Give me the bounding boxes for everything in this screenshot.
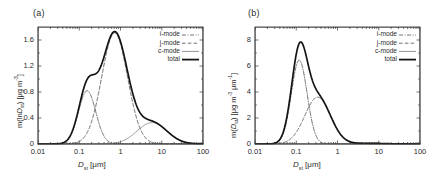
panel-a-y-tick-label: 0.4 [4, 113, 34, 122]
panel-a-legend-label-j-mode: j-mode [130, 39, 180, 46]
panel-a-legend-label-i-mode: i-mode [130, 30, 180, 37]
panel-b-x-axis-title: Dst [μm] [293, 160, 321, 171]
panel-a-x-axis-title: Dst [μm] [78, 160, 106, 171]
panel-a-x-tick-label: 0.1 [59, 147, 99, 156]
panel-b-legend-label-total: total [347, 55, 397, 62]
figure-container: (a) m(lnDst) [μg m-3] Dst [μm] 0.010.111… [0, 0, 433, 182]
panel-b-y-axis-title: m(Dst) [μg m-3 μm-1] [228, 73, 239, 138]
panel-b-y-tick-label: 2 [221, 113, 251, 122]
panel-b-series-j-mode [255, 97, 420, 144]
panel-b-y-tick-label: 4 [221, 87, 251, 96]
panel-b-y-tick-label: 8 [221, 35, 251, 44]
panel-b-legend-label-i-mode: i-mode [347, 30, 397, 37]
panel-b-x-tick-label: 100 [400, 147, 433, 156]
panel-b-y-tick-label: 6 [221, 61, 251, 70]
panel-a-tag: (a) [33, 8, 45, 18]
panel-a-x-tick-label: 10 [142, 147, 182, 156]
panel-b-x-tick-label: 0.01 [235, 147, 275, 156]
panel-a-y-tick-label: 0.8 [4, 87, 34, 96]
panel-b-legend-label-j-mode: j-mode [347, 39, 397, 46]
panel-b-y-tick-label: 0 [221, 139, 251, 148]
panel-a-legend-label-total: total [130, 55, 180, 62]
panel-b-x-tick-label: 0.1 [276, 147, 316, 156]
panel-a-y-tick-label: 1.6 [4, 35, 34, 44]
panel-a-y-tick-label: 0 [4, 139, 34, 148]
panel-b-tag: (b) [248, 8, 260, 18]
panel-b-legend-label-c-mode: c-mode [347, 47, 397, 54]
panel-b-x-tick-label: 10 [359, 147, 399, 156]
panel-b-series-i-mode [255, 60, 420, 144]
chart-panel-b: (b) m(Dst) [μg m-3 μm-1] Dst [μm] 0.010.… [217, 0, 433, 182]
chart-panel-a: (a) m(lnDst) [μg m-3] Dst [μm] 0.010.111… [0, 0, 216, 182]
panel-a-x-tick-label: 1 [101, 147, 141, 156]
panel-a-series-i-mode [38, 91, 203, 144]
panel-a-y-tick-label: 1.2 [4, 61, 34, 70]
panel-a-x-tick-label: 0.01 [18, 147, 58, 156]
panel-b-x-tick-label: 1 [318, 147, 358, 156]
panel-a-legend-label-c-mode: c-mode [130, 47, 180, 54]
